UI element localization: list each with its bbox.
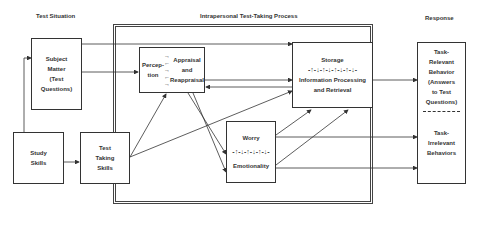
storage-title: Storage: [321, 55, 343, 65]
task-relevant-line-4: (Answers: [428, 77, 455, 87]
test-taking-skills-line-3: Skills: [97, 163, 113, 173]
appraisal-line-2: and: [170, 65, 204, 75]
task-irrelevant-line-1: Task-: [434, 128, 449, 138]
perception-line-2: tion: [142, 70, 164, 80]
test-taking-skills-box: Test Taking Skills: [80, 132, 130, 184]
emotionality-label: Emotionality: [233, 161, 269, 171]
appraisal-line-3: Reappraisal: [170, 75, 204, 85]
subject-matter-line-4: Questions): [41, 84, 72, 94]
worry-title: Worry: [242, 133, 259, 143]
subject-matter-line-3: (Test: [50, 74, 64, 84]
perception-label: Percep- tion: [142, 60, 164, 80]
study-skills-line-1: Study: [30, 148, 47, 158]
task-relevant-line-1: Task-: [434, 47, 449, 57]
task-irrelevant-line-2: Irrelevant: [428, 138, 455, 148]
task-relevant-line-2: Relevant: [429, 57, 454, 67]
task-relevant-line-5: to Test: [432, 87, 451, 97]
test-taking-skills-line-1: Test: [99, 143, 111, 153]
task-relevant-line-3: Behavior: [429, 67, 455, 77]
subject-matter-box: Subject Matter (Test Questions): [31, 38, 82, 110]
task-irrelevant-line-3: Behaviors: [427, 148, 456, 158]
perception-appraisal-box: Percep- tion →←→←→ Appraisal and Reappra…: [139, 47, 205, 93]
worry-symbols: -↑-↓-↑-↓-↑-↓-: [232, 147, 269, 157]
response-divider: [423, 111, 461, 112]
storage-box: Storage -↑-↓-↑-↓-↑-↓-↑-↓- Information Pr…: [292, 42, 373, 108]
worry-emotionality-box: Worry -↑-↓-↑-↓-↑-↓- Emotionality: [226, 121, 276, 183]
subject-matter-line-1: Subject: [46, 54, 68, 64]
storage-subtitle-2: and Retrieval: [314, 85, 352, 95]
task-relevant-line-6: Questions): [426, 97, 457, 107]
storage-subtitle-1: Information Processing: [299, 75, 366, 85]
perception-line-1: Percep-: [142, 60, 164, 70]
response-box: Task- Relevant Behavior (Answers to Test…: [417, 42, 466, 184]
study-skills-line-2: Skills: [31, 158, 47, 168]
appraisal-label: Appraisal and Reappraisal: [170, 55, 204, 85]
study-skills-box: Study Skills: [13, 132, 64, 184]
subject-matter-line-2: Matter: [47, 64, 65, 74]
appraisal-line-1: Appraisal: [170, 55, 204, 65]
storage-symbols: -↑-↓-↑-↓-↑-↓-↑-↓-: [308, 65, 357, 75]
test-taking-skills-line-2: Taking: [96, 153, 115, 163]
